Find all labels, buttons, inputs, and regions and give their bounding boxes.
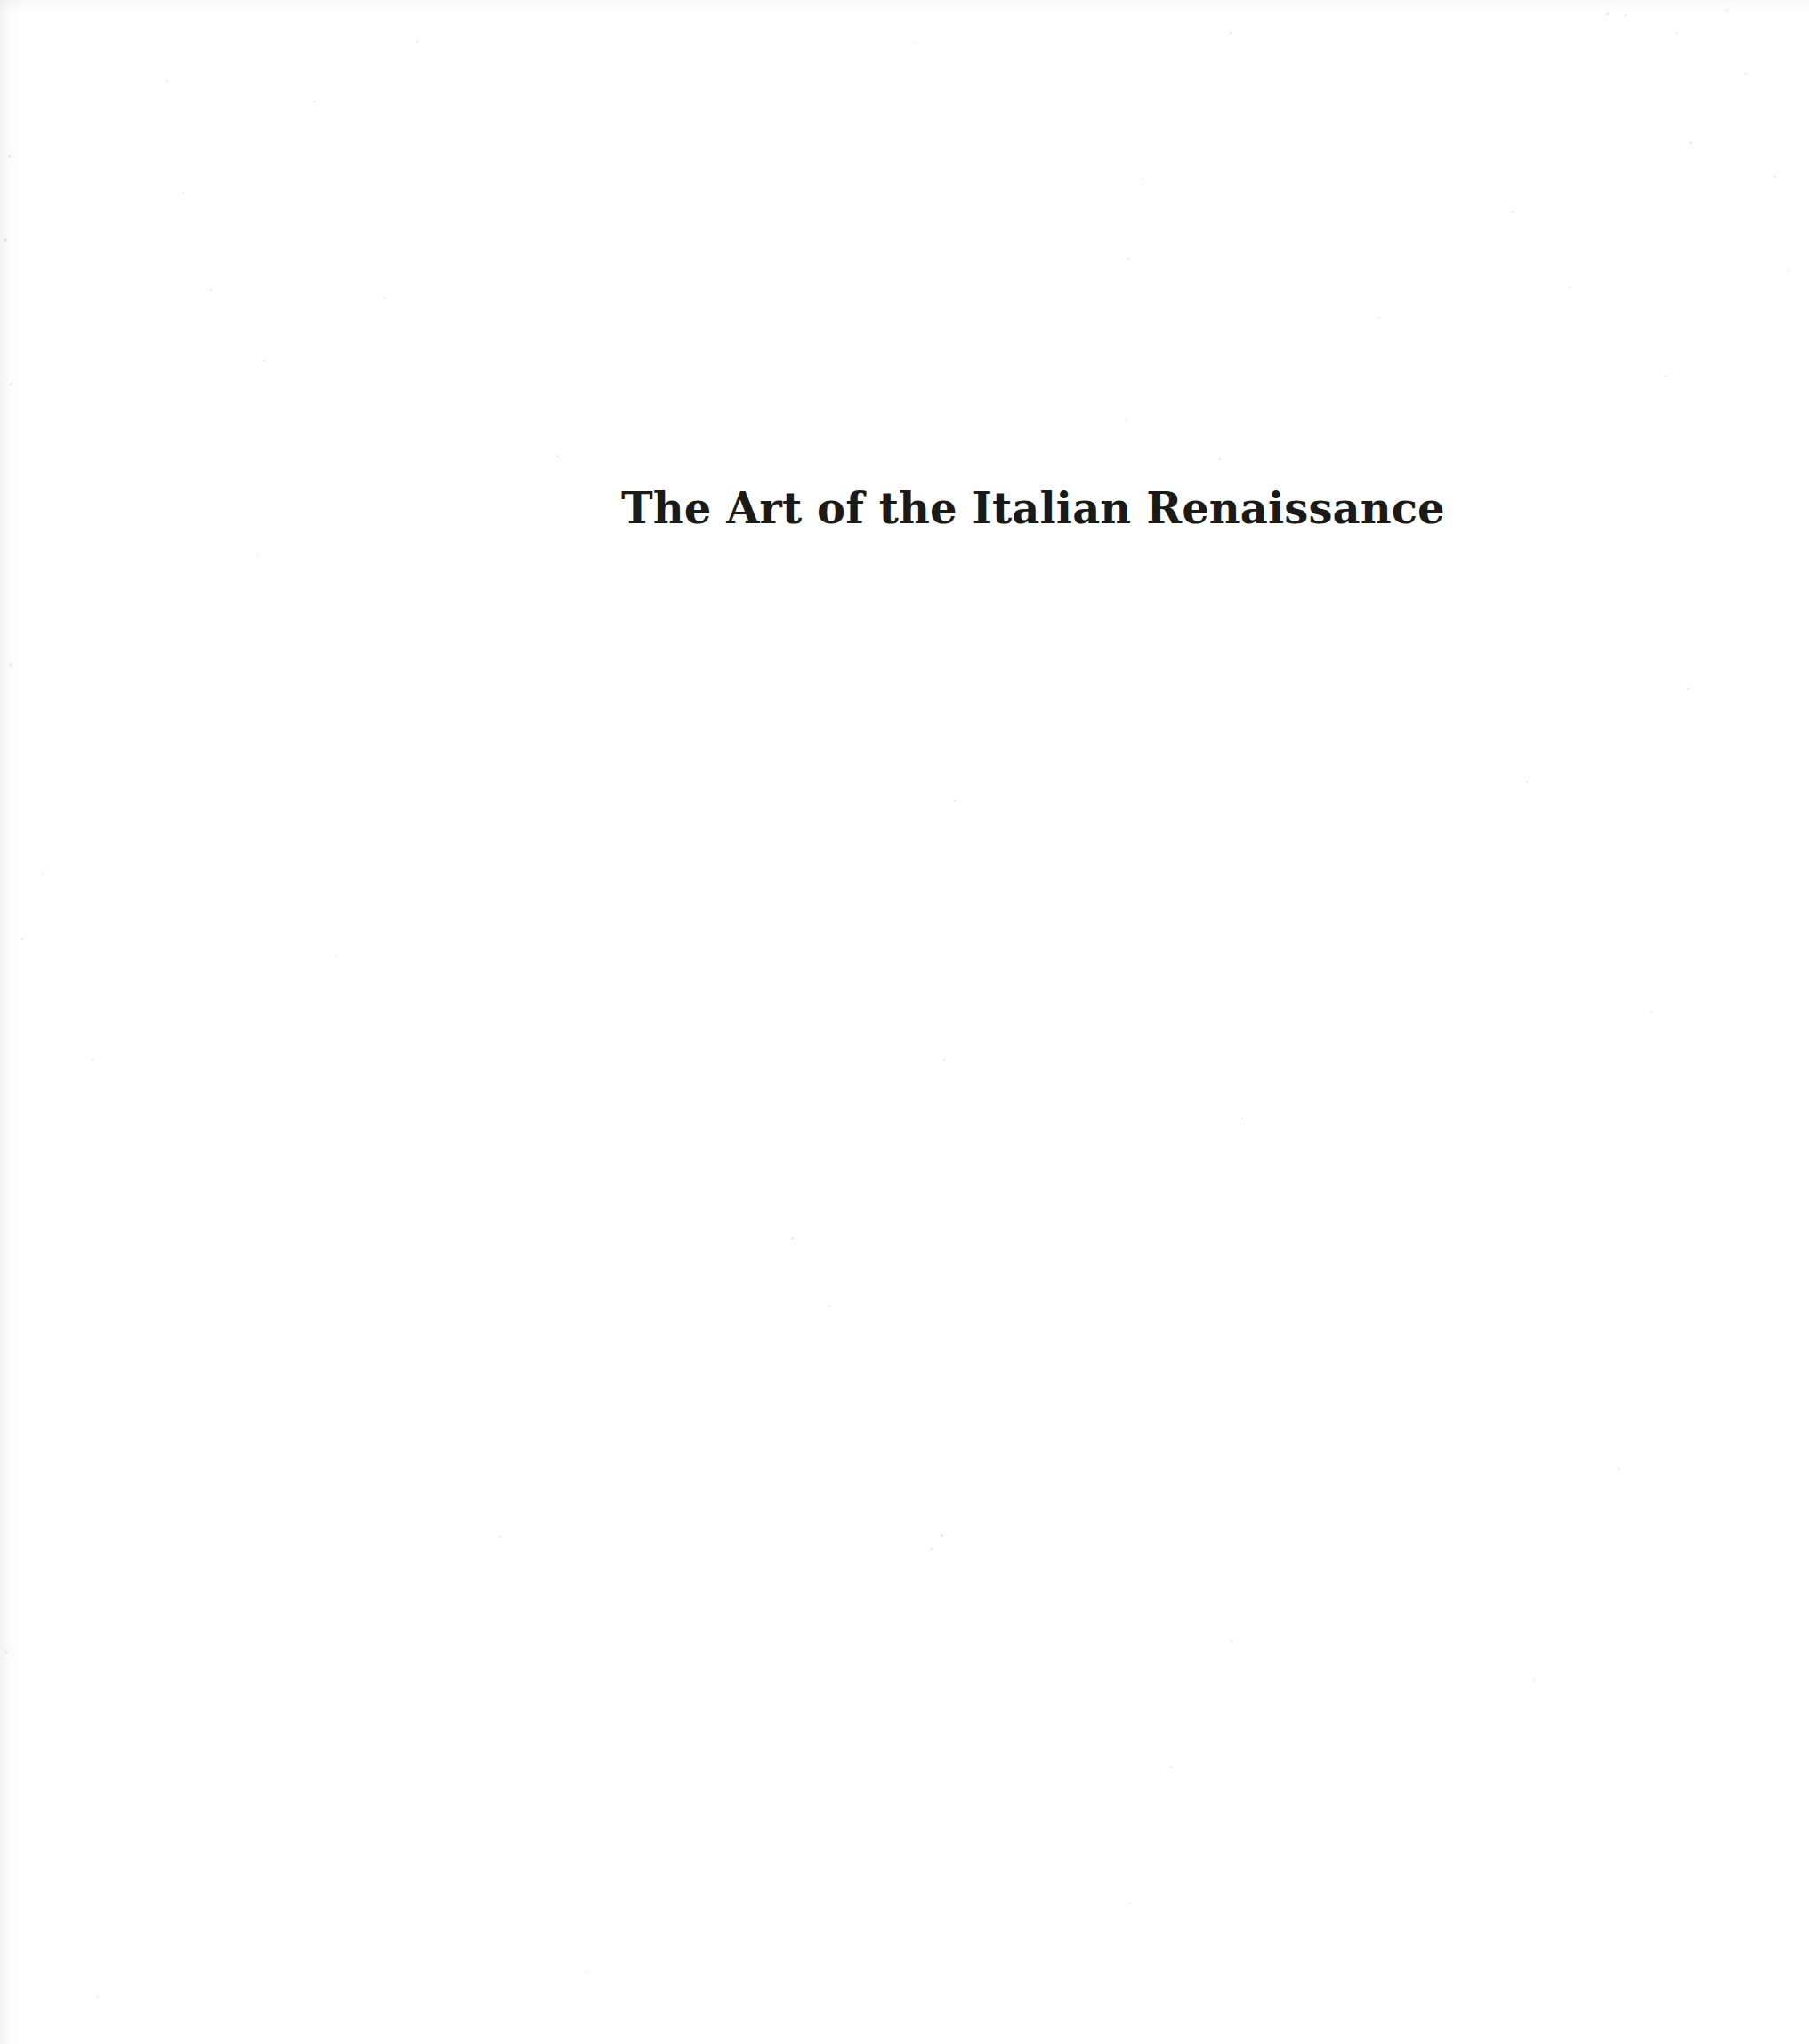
scan-speck bbox=[587, 1971, 589, 1973]
scan-speck bbox=[257, 554, 259, 556]
scan-speck bbox=[913, 42, 915, 44]
scan-speck bbox=[931, 1548, 933, 1550]
scan-speck bbox=[182, 192, 184, 194]
page-title: The Art of the Italian Renaissance bbox=[621, 485, 1155, 531]
scan-speck bbox=[21, 938, 23, 940]
scan-speck bbox=[5, 1651, 8, 1653]
scan-speck bbox=[1125, 419, 1127, 421]
scan-speck bbox=[210, 289, 212, 291]
scan-speck bbox=[1687, 688, 1689, 690]
scan-gutter-top-shading bbox=[0, 0, 1809, 12]
scan-speck bbox=[556, 455, 559, 457]
scan-speck bbox=[10, 383, 12, 385]
scan-speck bbox=[1142, 178, 1143, 180]
scan-speck bbox=[1618, 1468, 1619, 1470]
scan-speck bbox=[10, 663, 12, 666]
scan-speck bbox=[1129, 1903, 1131, 1904]
scan-speck bbox=[1569, 287, 1571, 288]
scan-speck bbox=[499, 1536, 501, 1538]
scan-speck bbox=[92, 1059, 93, 1061]
scan-speck bbox=[1690, 141, 1692, 144]
scan-speck bbox=[384, 297, 385, 299]
scan-speck bbox=[1241, 1118, 1243, 1119]
scan-speck bbox=[1170, 1766, 1172, 1768]
scan-speck bbox=[1788, 270, 1789, 271]
scan-speck bbox=[1651, 1011, 1652, 1013]
scan-speck bbox=[42, 873, 44, 875]
scan-speck bbox=[791, 1237, 794, 1240]
scan-speck bbox=[1512, 211, 1514, 213]
scan-speck bbox=[1231, 1640, 1232, 1642]
scan-speck bbox=[1230, 32, 1232, 34]
scan-speck bbox=[416, 41, 418, 43]
scanned-page: The Art of the Italian Renaissance bbox=[0, 0, 1809, 2044]
scan-speck bbox=[97, 1996, 99, 1998]
scan-speck bbox=[1378, 317, 1380, 319]
scan-speck bbox=[1665, 376, 1667, 377]
scan-speck bbox=[943, 1059, 945, 1061]
scan-speck bbox=[828, 1305, 830, 1307]
scan-speck bbox=[1625, 14, 1627, 16]
scan-speck bbox=[1526, 781, 1528, 783]
scan-gutter-left-shading bbox=[0, 0, 23, 2044]
scan-speck bbox=[941, 1534, 943, 1537]
scan-speck bbox=[335, 956, 336, 957]
scan-speck bbox=[1774, 176, 1776, 178]
scan-speck bbox=[1745, 73, 1747, 75]
scan-speck bbox=[1127, 258, 1129, 260]
scan-speck bbox=[1606, 12, 1609, 15]
scan-speck bbox=[166, 80, 167, 82]
scan-speck bbox=[1726, 9, 1728, 11]
scan-speck bbox=[1676, 32, 1677, 34]
scan-speck bbox=[263, 360, 265, 361]
scan-speckle-layer bbox=[0, 0, 1809, 2044]
scan-speck bbox=[4, 238, 7, 242]
scan-speck bbox=[954, 800, 956, 802]
scan-speck bbox=[313, 101, 315, 102]
scan-speck bbox=[1533, 1679, 1535, 1681]
scan-speck bbox=[8, 155, 11, 158]
scan-speck bbox=[1219, 458, 1221, 460]
